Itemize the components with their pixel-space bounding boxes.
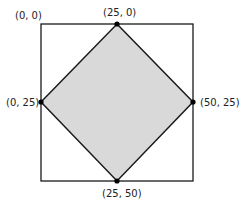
label-right: (50, 25) bbox=[200, 97, 240, 109]
vertex-bottom bbox=[114, 178, 119, 183]
vertex-top bbox=[114, 21, 119, 26]
inscribed-diamond bbox=[41, 24, 193, 181]
label-bottom: (25, 50) bbox=[102, 188, 142, 200]
label-top-left: (0, 0) bbox=[15, 10, 42, 22]
label-top: (25, 0) bbox=[103, 7, 136, 19]
vertex-right bbox=[190, 99, 195, 104]
label-left: (0, 25) bbox=[6, 97, 39, 109]
